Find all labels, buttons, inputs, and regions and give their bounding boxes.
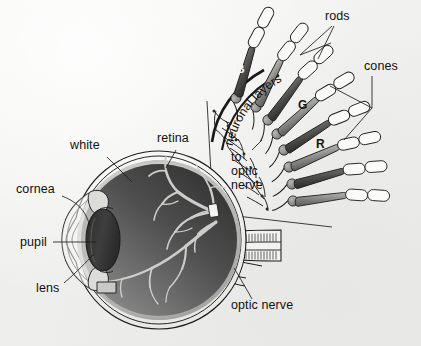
label-pupil: pupil [20, 235, 47, 249]
cone-letter-red: R [316, 137, 325, 151]
label-to-optic-nerve: toopticnerve [231, 150, 263, 192]
label-rods: rods [325, 9, 350, 23]
label-lens: lens [36, 281, 59, 295]
to-optic-nerve-line-2: optic [231, 164, 258, 178]
to-optic-nerve-line-3: nerve [231, 178, 263, 192]
to-optic-nerve-line-1: to [231, 150, 242, 164]
label-optic-nerve: optic nerve [231, 298, 293, 312]
optic-disc-patch [208, 203, 219, 217]
cone-letter-green: G [298, 98, 307, 112]
label-cones: cones [364, 59, 398, 73]
label-white: white [70, 138, 100, 152]
label-cornea: cornea [16, 182, 55, 196]
cone-letter-blue: B [236, 62, 246, 77]
label-retina: retina [157, 131, 189, 145]
eye-diagram-svg: neuronal layers [0, 0, 421, 346]
figure-canvas: neuronal layers white retina cornea pupi… [0, 0, 421, 346]
